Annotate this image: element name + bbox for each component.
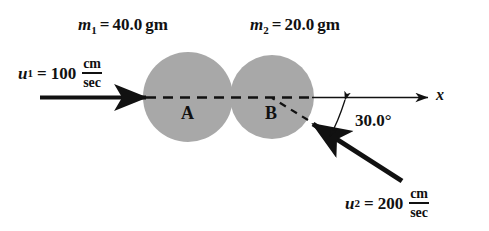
velocity2-unit-numerator: cm [409, 186, 429, 201]
mass2-subscript: 2 [263, 24, 269, 36]
fraction-bar [409, 202, 429, 204]
velocity1-symbol: u [18, 65, 27, 82]
mass1-equals: = [97, 15, 113, 34]
velocity2-equals: = [360, 195, 378, 212]
velocity1-unit-numerator: cm [82, 56, 102, 71]
ball-b-label: B [265, 104, 277, 122]
mass1-subscript: 1 [91, 24, 97, 36]
ball-a-label: A [181, 104, 194, 122]
mass1-symbol: m [78, 15, 91, 34]
velocity1-unit-denominator: sec [82, 75, 102, 90]
mass2-equals: = [269, 15, 285, 34]
mass1-label: m1=40.0gm [78, 16, 168, 36]
mass2-label: m2=20.0gm [250, 16, 340, 36]
velocity2-label: u2=200 cm sec [345, 186, 429, 220]
velocity2-unit-denominator: sec [409, 205, 429, 220]
angle-arc [330, 100, 345, 136]
velocity1-value: 100 [51, 65, 77, 82]
mass2-symbol: m [250, 15, 263, 34]
velocity2-arrow [313, 124, 402, 181]
velocity2-value: 200 [378, 195, 404, 212]
mass1-value: 40.0 [112, 15, 142, 34]
fraction-bar [82, 72, 102, 74]
mass2-unit: gm [314, 15, 340, 34]
mass2-value: 20.0 [284, 15, 314, 34]
velocity2-unit-fraction: cm sec [409, 186, 429, 220]
angle-label: 30.0° [355, 112, 392, 129]
velocity1-equals: = [33, 65, 51, 82]
velocity2-symbol: u [345, 195, 354, 212]
velocity1-unit-fraction: cm sec [82, 56, 102, 90]
physics-collision-diagram: m1=40.0gm m2=20.0gm u1=100 cm sec u2=200… [0, 0, 489, 231]
velocity1-label: u1=100 cm sec [18, 56, 102, 90]
mass1-unit: gm [142, 15, 168, 34]
x-axis-label: x [436, 87, 444, 103]
